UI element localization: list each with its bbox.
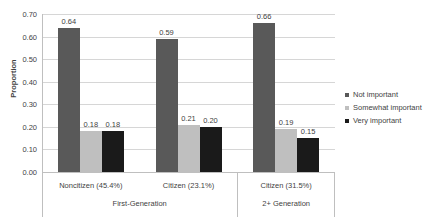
legend-label: Somewhat important <box>353 103 422 112</box>
x-axis-category-label: Citizen (31.5%) <box>261 181 312 190</box>
y-axis-line <box>42 14 43 173</box>
y-axis-tick-labels: 0.000.100.200.300.400.500.600.70 <box>0 0 40 217</box>
bar <box>275 129 297 172</box>
bar <box>58 28 80 172</box>
legend-label: Very important <box>353 116 401 125</box>
bar-value-label: 0.64 <box>62 17 77 26</box>
y-axis-tick-label: 0.40 <box>22 77 37 86</box>
bar-value-label: 0.19 <box>279 118 294 127</box>
legend-swatch-icon <box>345 93 349 97</box>
x-axis-category-labels: Noncitizen (45.4%)Citizen (23.1%)Citizen… <box>42 173 335 217</box>
x-axis-group-label: First-Generation <box>113 199 167 208</box>
gridline <box>42 59 335 60</box>
category-separator <box>334 173 335 217</box>
legend-swatch-icon <box>345 119 349 123</box>
bar-value-label: 0.66 <box>257 12 272 21</box>
bar-value-label: 0.18 <box>106 120 121 129</box>
y-axis-tick-label: 0.20 <box>22 122 37 131</box>
y-axis-tick-label: 0.70 <box>22 10 37 19</box>
legend: Not importantSomewhat importantVery impo… <box>345 88 422 127</box>
gridline <box>42 37 335 38</box>
gridline <box>42 104 335 105</box>
category-separator <box>237 173 238 217</box>
legend-item[interactable]: Very important <box>345 114 422 127</box>
bar <box>80 131 102 172</box>
y-axis-tick-label: 0.50 <box>22 55 37 64</box>
bar-value-label: 0.21 <box>181 114 196 123</box>
bar-value-label: 0.20 <box>203 116 218 125</box>
bar <box>297 138 319 172</box>
y-axis-tick-label: 0.60 <box>22 32 37 41</box>
bar-value-label: 0.18 <box>84 120 99 129</box>
bar-value-label: 0.15 <box>301 127 316 136</box>
bar <box>253 23 275 172</box>
gridline <box>42 14 335 15</box>
bar <box>156 39 178 172</box>
bar-value-label: 0.59 <box>159 28 174 37</box>
plot-area: 0.640.180.180.590.210.200.660.190.15 <box>42 14 335 172</box>
y-axis-tick-label: 0.10 <box>22 145 37 154</box>
x-axis-group-label: 2+ Generation <box>262 199 310 208</box>
bar <box>200 127 222 172</box>
legend-item[interactable]: Not important <box>345 88 422 101</box>
legend-item[interactable]: Somewhat important <box>345 101 422 114</box>
legend-swatch-icon <box>345 106 349 110</box>
bar-chart: Proportion 0.000.100.200.300.400.500.600… <box>0 0 434 217</box>
gridline <box>42 82 335 83</box>
category-separator <box>42 173 43 217</box>
x-axis-category-label: Citizen (23.1%) <box>163 181 214 190</box>
x-axis-category-label: Noncitizen (45.4%) <box>59 181 122 190</box>
bar <box>102 131 124 172</box>
y-axis-tick-label: 0.30 <box>22 100 37 109</box>
legend-label: Not important <box>353 90 398 99</box>
bar <box>178 125 200 172</box>
y-axis-tick-label: 0.00 <box>22 168 37 177</box>
